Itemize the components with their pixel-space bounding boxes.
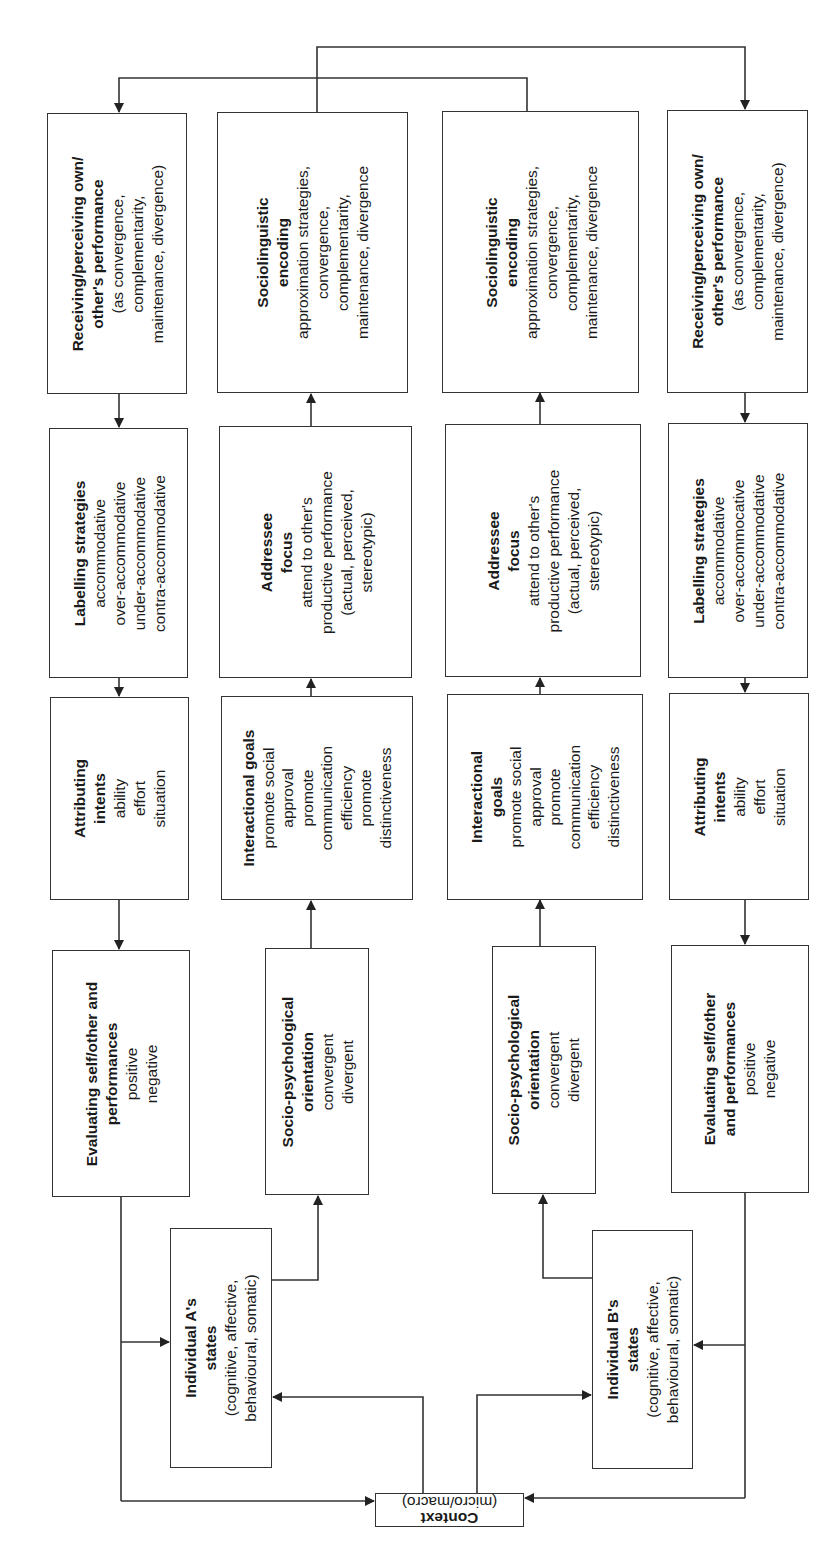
box-b-interactional-goals: Interactionalgoals promote social approv…	[447, 694, 643, 900]
box-a-sociolinguistic-encoding: Sociolinguisticencoding approximation st…	[217, 112, 408, 393]
box-a-addressee-focus: Addresseefocus attend to other's product…	[219, 426, 412, 678]
box-individual-b-states: Individual B'sstates (cognitive, affecti…	[592, 1230, 693, 1469]
loop-a-encoding-to-b-receiving	[317, 47, 745, 112]
box-b-sociolinguistic-encoding: Sociolinguisticencoding approximation st…	[442, 111, 639, 393]
box-b-socio-psychological-orientation: Socio-psychologicalorientation convergen…	[492, 946, 596, 1194]
loop-b-encoding-to-a-receiving	[119, 78, 527, 112]
box-b-addressee-focus: Addresseefocus attend to other's product…	[445, 424, 641, 677]
box-a-evaluating-performances: Evaluating self/other andperformances po…	[52, 950, 190, 1197]
box-b-labelling-strategies: Labelling strategies accommodative over-…	[668, 423, 808, 678]
box-b-evaluating-performances: Evaluating self/otherand performances po…	[671, 945, 809, 1193]
box-context: Context (micro/macro)	[375, 1493, 524, 1527]
box-a-attributing-intents: Attributingintents ability effort situat…	[50, 697, 189, 900]
box-b-receiving-performance: Receiving/perceiving own/other's perform…	[667, 110, 808, 393]
box-a-interactional-goals: Interactional goals promote social appro…	[221, 696, 413, 900]
accommodation-flow-diagram: Receiving/perceiving own/other's perform…	[0, 0, 839, 1559]
box-title: Receiving/perceiving own/other's perform…	[67, 156, 107, 351]
box-a-receiving-performance: Receiving/perceiving own/other's perform…	[47, 113, 187, 394]
box-a-socio-psychological-orientation: Socio-psychologicalorientation convergen…	[265, 948, 369, 1195]
box-individual-a-states: Individual A'sstates (cognitive, affecti…	[170, 1228, 272, 1468]
box-a-labelling-strategies: Labelling strategies accommodative over-…	[49, 428, 188, 678]
box-b-attributing-intents: Attributingintents ability effort situat…	[669, 693, 809, 900]
